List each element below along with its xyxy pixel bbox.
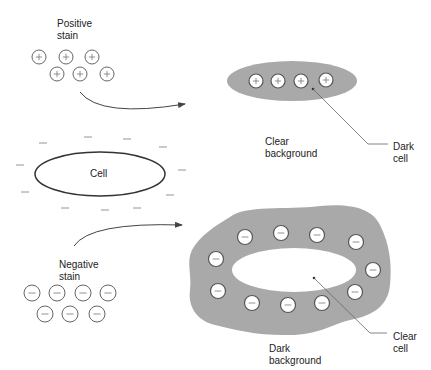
negative-stain-arrow [74,225,182,246]
repelled-negative-particle [209,252,224,267]
negative-charge-particle [100,285,116,301]
diagram-canvas [0,0,431,370]
bound-positive-particle [271,74,285,88]
repelled-negative-particle [349,235,364,250]
positive-charge-particle [85,50,99,64]
negative-charge-particle [24,285,40,301]
negative-stain-label: Negative stain [59,259,98,283]
repelled-negative-particle [274,226,289,241]
clear-background-label: Clear background [265,136,317,160]
positive-charge-particle [32,50,46,64]
repelled-negative-particle [238,230,253,245]
repelled-negative-particle [315,296,330,311]
positive-charge-particle [50,67,64,81]
negative-charge-particle [89,306,105,322]
negative-charge-particle [62,306,78,322]
repelled-negative-particle [310,228,325,243]
cell-label: Cell [90,168,107,180]
repelled-negative-particle [348,285,363,300]
clear-cell [232,248,356,292]
clear-cell-label: Clear cell [393,331,417,355]
stained-dark-cell [227,61,357,101]
bound-positive-particle [294,74,308,88]
dark-background-label: Dark background [269,343,321,367]
repelled-negative-particle [366,263,381,278]
repelled-negative-particle [281,298,296,313]
repelled-negative-particle [211,284,226,299]
positive-charge-particle [100,67,114,81]
staining-diagram: Positive stain Clear background Dark cel… [0,0,431,370]
positive-stain-label: Positive stain [57,18,92,42]
positive-charge-particle [73,67,87,81]
repelled-negative-particle [245,296,260,311]
dark-cell-label: Dark cell [393,141,414,165]
negative-charge-particle [75,285,91,301]
positive-charge-particle [59,50,73,64]
positive-stain-arrow [80,92,185,109]
positive-stain-particles [32,50,114,81]
bound-positive-particle [319,73,333,87]
bound-positive-particle [249,74,263,88]
negative-charge-particle [37,306,53,322]
negative-charge-particle [49,285,65,301]
negative-stain-particles [24,285,116,322]
